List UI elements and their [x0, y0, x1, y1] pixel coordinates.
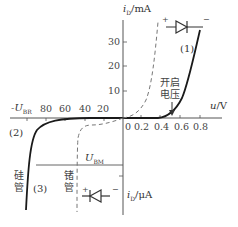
- x-tick-neg-60: 60: [59, 104, 71, 114]
- x-tick-neg-40: 40: [79, 104, 91, 114]
- x-tick-neg-80: 80: [40, 104, 52, 114]
- neg-breakdown-label: -UBR: [11, 103, 32, 115]
- silicon-label: 硅 管: [14, 170, 24, 194]
- y-tick-30: 30: [108, 37, 120, 47]
- forward-diode-plus: +: [162, 16, 169, 24]
- y-axis-label-bottom: iD/μA: [127, 190, 152, 202]
- forward-diode-minus: −: [203, 16, 210, 24]
- region-2-label: (2): [9, 128, 23, 138]
- forward-diode-icon: [166, 21, 203, 33]
- x-tick-neg-20: 20: [97, 104, 109, 114]
- ubm-label: UBM: [85, 153, 104, 165]
- reverse-diode-plus: +: [82, 186, 89, 194]
- x-tick-0.8: 0.8: [193, 122, 208, 132]
- region-3-label: (3): [33, 184, 47, 194]
- y-axis-label-top: iD/mA: [123, 4, 151, 16]
- y-tick-20: 20: [108, 61, 120, 71]
- reverse-diode-minus: −: [112, 186, 119, 194]
- turn-on-voltage-label: 开启 电压: [160, 77, 180, 101]
- y-tick-10: 10: [108, 86, 120, 96]
- germanium-forward-curve: [123, 22, 158, 118]
- germanium-label: 锗 管: [64, 170, 74, 194]
- region-1-label: (1): [180, 44, 194, 54]
- x-tick-0: 0: [125, 122, 131, 132]
- x-axis-label: u/V: [210, 101, 227, 111]
- x-tick-0.4: 0.4: [154, 122, 169, 132]
- x-tick-0.2: 0.2: [134, 122, 149, 132]
- x-tick-0.6: 0.6: [174, 122, 189, 132]
